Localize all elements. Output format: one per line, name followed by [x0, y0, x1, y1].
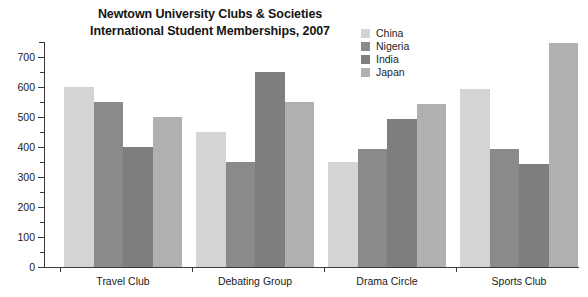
bar-drama-circle-nigeria: [358, 149, 388, 268]
y-tick-major: [38, 177, 44, 178]
y-tick-minor: [40, 222, 44, 223]
legend-item-china[interactable]: China: [361, 27, 409, 40]
bar-travel-club-china: [64, 87, 94, 267]
y-axis-tick-label: 0: [29, 261, 35, 273]
x-axis-category-label: Drama Circle: [356, 275, 417, 287]
bar-sports-club-india: [519, 164, 549, 268]
bar-travel-club-japan: [153, 117, 183, 267]
y-tick-major: [38, 207, 44, 208]
y-axis-tick-label: 400: [17, 141, 35, 153]
y-tick-minor: [39, 42, 44, 43]
y-tick-major: [38, 147, 44, 148]
legend-swatch-icon: [361, 29, 370, 38]
x-tick: [324, 267, 325, 272]
y-axis-tick-label: 600: [17, 81, 35, 93]
x-axis-category-label: Debating Group: [218, 275, 292, 287]
bar-sports-club-china: [460, 89, 490, 268]
y-tick-minor: [40, 102, 44, 103]
bar-debating-group-japan: [285, 102, 315, 267]
bar-debating-group-china: [196, 132, 226, 267]
y-axis-line: [44, 42, 45, 267]
y-axis-tick-label: 300: [17, 171, 35, 183]
y-tick-minor: [40, 72, 44, 73]
bar-debating-group-india: [255, 72, 285, 267]
y-axis-tick-label: 200: [17, 201, 35, 213]
bar-drama-circle-india: [387, 119, 417, 268]
x-axis-line: [44, 267, 579, 268]
bar-travel-club-nigeria: [94, 102, 124, 267]
y-tick-major: [38, 117, 44, 118]
x-axis-category-label: Travel Club: [96, 275, 149, 287]
x-tick: [60, 267, 61, 272]
bar-sports-club-japan: [549, 43, 579, 267]
y-tick-minor: [40, 132, 44, 133]
y-axis-tick-label: 500: [17, 111, 35, 123]
bar-debating-group-nigeria: [226, 162, 256, 267]
y-axis-tick-label: 700: [17, 51, 35, 63]
y-tick-minor: [40, 192, 44, 193]
y-tick-major: [38, 57, 44, 58]
y-tick-major: [38, 237, 44, 238]
x-tick: [192, 267, 193, 272]
legend-item-label: China: [376, 27, 403, 40]
bar-sports-club-nigeria: [490, 149, 520, 267]
x-axis-category-label: Sports Club: [492, 275, 547, 287]
y-tick-major: [38, 87, 44, 88]
bar-drama-circle-china: [328, 162, 358, 267]
chart-title: Newtown University Clubs & Societies Int…: [60, 6, 360, 40]
x-tick: [456, 267, 457, 272]
chart-title-line-1: Newtown University Clubs & Societies: [60, 6, 360, 23]
y-tick-minor: [40, 252, 44, 253]
chart-title-line-2: International Student Memberships, 2007: [60, 23, 360, 40]
y-tick-major: [38, 267, 44, 268]
y-tick-minor: [40, 162, 44, 163]
bar-travel-club-india: [123, 147, 153, 267]
plot-area: 0100200300400500600700Travel ClubDebatin…: [44, 42, 579, 267]
bar-chart: Newtown University Clubs & Societies Int…: [0, 0, 588, 297]
bar-drama-circle-japan: [417, 104, 447, 268]
y-axis-tick-label: 100: [17, 231, 35, 243]
